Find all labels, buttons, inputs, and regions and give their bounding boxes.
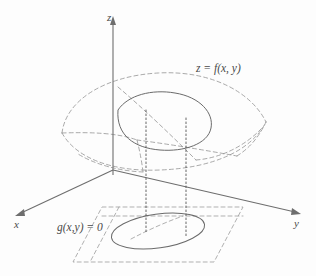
axis-y-label: y <box>294 218 299 229</box>
surface-upper-rim <box>62 73 266 133</box>
lower-ellipse-guide <box>131 216 183 239</box>
axis-x <box>15 170 113 216</box>
xy-plane-patch <box>73 207 243 262</box>
axis-z <box>110 16 116 175</box>
surface-group <box>62 73 266 172</box>
surface-equation-label: z = f(x, y) <box>196 63 241 75</box>
axis-z-label: z <box>107 12 111 23</box>
axis-y-line <box>113 170 295 212</box>
projection-lines <box>146 110 186 236</box>
axis-x-arrowhead <box>15 209 25 216</box>
curve-on-surface <box>118 92 212 151</box>
axis-y-arrowhead <box>291 208 301 215</box>
axis-x-label: x <box>14 219 19 230</box>
surface-lower-rim <box>62 122 266 170</box>
axis-y <box>113 170 301 215</box>
constraint-curve-ellipse <box>109 208 207 255</box>
surface-grid-arc-right <box>196 128 262 160</box>
constraint-equation-label: g(x,y) = 0 <box>57 222 103 234</box>
surface-fold-right <box>237 122 266 156</box>
xy-plane-outline <box>73 207 243 262</box>
figure-3d-constrained-surface: x y z z = f(x, y) g(x,y) = 0 <box>0 0 316 276</box>
axis-x-line <box>21 170 113 213</box>
xy-plane-guide-a <box>90 207 119 262</box>
figure-canvas <box>0 0 316 276</box>
